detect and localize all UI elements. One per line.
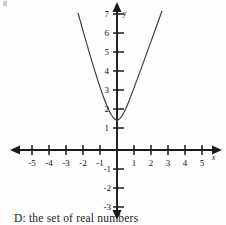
y-tick-label-2: 2 <box>105 104 110 114</box>
y-tick-label--2: -2 <box>104 183 112 193</box>
y-tick-label--3: -3 <box>104 202 112 212</box>
x-tick-label-1: 1 <box>132 158 137 168</box>
graph-screenshot: -5 -4 -3 -2 -1 1 2 3 4 5 7 6 5 4 3 2 1 -… <box>0 0 226 225</box>
y-axis-ticks <box>113 14 124 207</box>
answer-caption: D: the set of real numbers <box>14 212 214 225</box>
y-tick-label-1: 1 <box>105 123 110 133</box>
y-tick-label-3: 3 <box>105 85 110 95</box>
y-tick-label-5: 5 <box>105 47 110 57</box>
x-tick-label-2: 2 <box>149 158 154 168</box>
y-axis-top-arrow-icon <box>113 2 122 12</box>
y-axis-label: y <box>122 9 127 18</box>
x-axis-left-arrow-icon <box>10 146 20 155</box>
x-tick-label-5: 5 <box>200 158 205 168</box>
y-tick-label-7: 7 <box>105 9 110 19</box>
x-tick-label--3: -3 <box>62 158 70 168</box>
x-tick-label--4: -4 <box>45 158 53 168</box>
y-tick-label--1: -1 <box>104 164 112 174</box>
x-axis-label: x <box>211 153 216 162</box>
x-tick-label-3: 3 <box>166 158 171 168</box>
x-tick-label--2: -2 <box>79 158 87 168</box>
x-tick-label--5: -5 <box>28 158 36 168</box>
x-tick-label-4: 4 <box>183 158 188 168</box>
coordinate-plane: -5 -4 -3 -2 -1 1 2 3 4 5 7 6 5 4 3 2 1 -… <box>0 0 226 225</box>
y-tick-label-6: 6 <box>105 28 110 38</box>
y-tick-label-4: 4 <box>105 66 110 76</box>
parabola-curve <box>78 11 162 120</box>
